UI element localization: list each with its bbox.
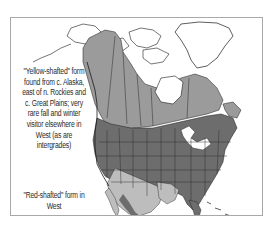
caribbean-islands [207, 202, 231, 216]
red-shafted-annotation: "Red-shafted" form in West [20, 190, 87, 211]
yellow-shafted-annotation: "Yellow-shafted" form found from c. Alas… [20, 66, 87, 151]
map-frame: "Yellow-shafted" form found from c. Alas… [10, 17, 263, 216]
greenland-outline [175, 22, 233, 68]
aleutian-chain [33, 44, 71, 62]
